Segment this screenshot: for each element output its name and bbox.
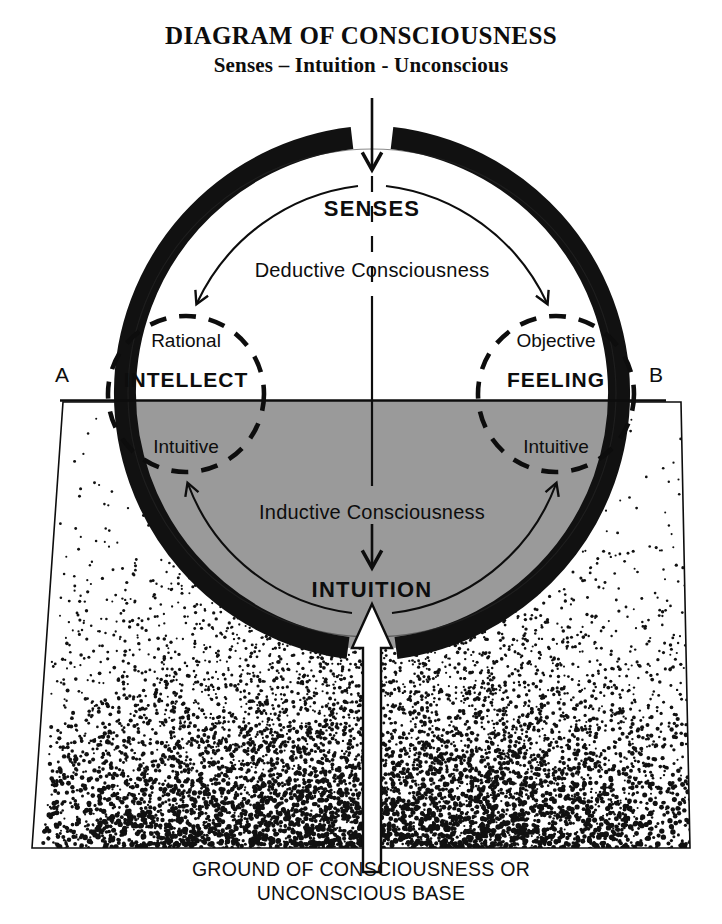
ground-caption: GROUND OF CONSCIOUSNESS OR UNCONSCIOUS B… xyxy=(0,858,722,906)
label-intuitive-left: Intuitive xyxy=(153,436,218,458)
label-rational: Rational xyxy=(151,330,221,352)
label-deductive-consciousness: Deductive Consciousness xyxy=(255,259,490,282)
axis-marker-b: B xyxy=(649,363,663,387)
label-senses: SENSES xyxy=(324,196,420,222)
diagram-canvas: DIAGRAM OF CONSCIOUSNESS Senses – Intuit… xyxy=(0,0,722,924)
label-intellect: INTELLECT xyxy=(124,368,249,392)
label-feeling: FEELING xyxy=(507,368,605,392)
label-intuition: INTUITION xyxy=(312,577,433,603)
caption-line-2: UNCONSCIOUS BASE xyxy=(0,882,722,906)
caption-line-1: GROUND OF CONSCIOUSNESS OR xyxy=(0,858,722,882)
axis-marker-a: A xyxy=(55,363,69,387)
label-inductive-consciousness: Inductive Consciousness xyxy=(259,501,485,524)
consciousness-diagram-svg xyxy=(0,0,722,924)
label-objective: Objective xyxy=(516,330,595,352)
label-intuitive-right: Intuitive xyxy=(523,436,588,458)
